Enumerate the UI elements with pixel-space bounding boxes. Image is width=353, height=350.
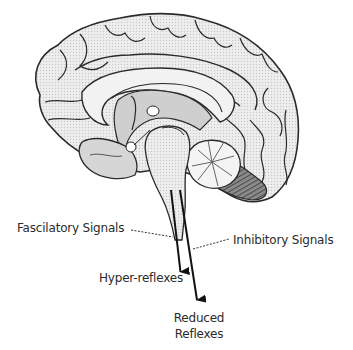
brain-diagram [0,0,353,350]
hyper-reflexes-label: Hyper-reflexes [99,271,183,286]
inhibitory-signals-label: Inhibitory Signals [233,233,333,248]
reduced-reflexes-label: Reduced Reflexes [172,310,226,342]
fascilatory-signals-label: Fascilatory Signals [17,221,124,236]
brainstem [145,126,190,240]
inhibitory-leader-line [193,239,229,249]
reduced-reflexes-line2: Reflexes [172,326,226,342]
fascilatory-leader-line [131,230,173,237]
reduced-reflexes-line1: Reduced [172,310,226,326]
